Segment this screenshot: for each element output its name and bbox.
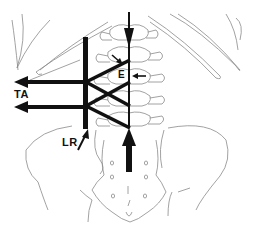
erector-small-arrow bbox=[112, 55, 123, 65]
anatomy-drawing bbox=[0, 0, 260, 248]
ribs-left bbox=[12, 14, 112, 80]
force-vectors bbox=[14, 12, 146, 172]
label-ta: TA bbox=[14, 89, 29, 100]
lr-pointer-arrow bbox=[78, 129, 89, 150]
label-e: E bbox=[118, 70, 125, 80]
spine-down-arrow bbox=[124, 12, 134, 128]
spine-up-arrow bbox=[122, 128, 136, 172]
ta-upper-arrow bbox=[14, 76, 85, 88]
ta-lower-arrow bbox=[14, 101, 85, 113]
ribs-right bbox=[148, 14, 241, 79]
diagram-canvas: TA E LR bbox=[0, 0, 260, 248]
label-lr: LR bbox=[62, 137, 78, 148]
e-force-arrow bbox=[132, 73, 146, 79]
